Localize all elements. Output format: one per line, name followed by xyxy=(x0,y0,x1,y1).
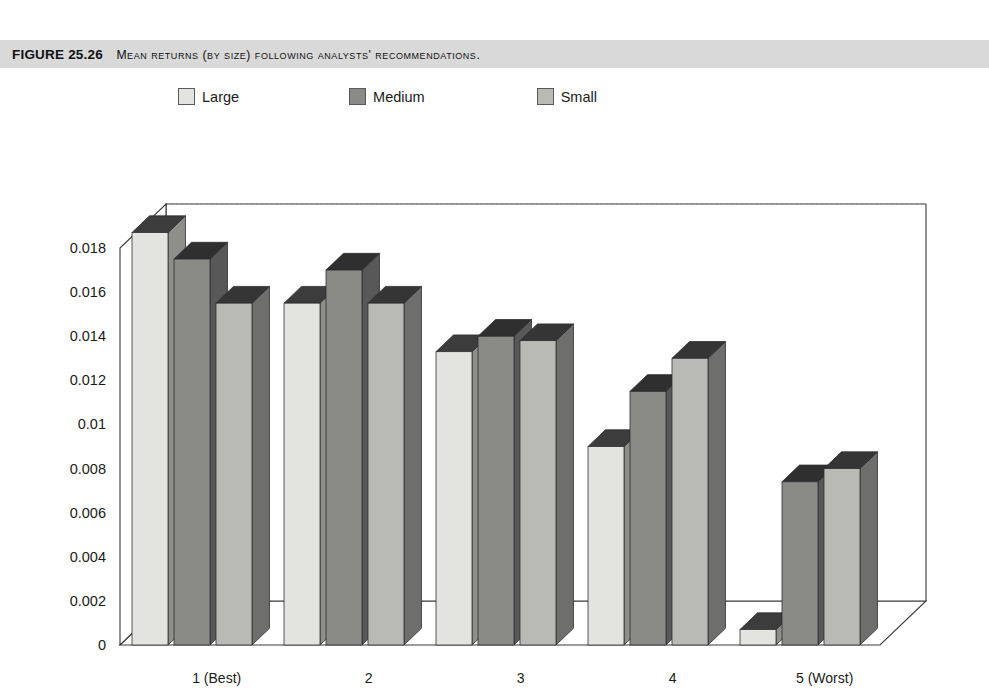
x-tick-label: 1 (Best) xyxy=(192,670,241,686)
y-tick-label: 0.014 xyxy=(70,328,106,344)
y-tick-label: 0.018 xyxy=(70,240,106,256)
bar xyxy=(216,286,269,645)
x-tick-label: 2 xyxy=(365,670,373,686)
y-tick-label: 0.01 xyxy=(78,416,106,432)
y-tick-label: 0 xyxy=(98,637,106,653)
figure-title: Mean returns (by size) following analyst… xyxy=(116,48,480,62)
figure-caption: FIGURE 25.26 Mean returns (by size) foll… xyxy=(0,45,480,63)
x-tick-label: 5 (Worst) xyxy=(796,670,853,686)
chart-area: Large Medium Small 00.0020.0040.0060.008… xyxy=(0,68,989,696)
bar xyxy=(368,286,421,645)
y-tick-label: 0.002 xyxy=(70,593,106,609)
bar xyxy=(520,324,573,645)
y-axis-labels: 00.0020.0040.0060.0080.010.0120.0140.016… xyxy=(70,240,106,653)
bar xyxy=(824,452,877,645)
bar xyxy=(672,342,725,645)
bar-chart-plot: 00.0020.0040.0060.0080.010.0120.0140.016… xyxy=(0,68,989,696)
x-tick-label: 3 xyxy=(517,670,525,686)
figure-caption-band: FIGURE 25.26 Mean returns (by size) foll… xyxy=(0,40,989,68)
y-tick-label: 0.016 xyxy=(70,284,106,300)
figure-number: FIGURE 25.26 xyxy=(12,47,103,62)
y-tick-label: 0.008 xyxy=(70,461,106,477)
x-axis-labels: 1 (Best)2345 (Worst) xyxy=(192,670,853,686)
y-tick-label: 0.006 xyxy=(70,505,106,521)
y-tick-label: 0.012 xyxy=(70,372,106,388)
x-tick-label: 4 xyxy=(669,670,677,686)
y-tick-label: 0.004 xyxy=(70,549,106,565)
